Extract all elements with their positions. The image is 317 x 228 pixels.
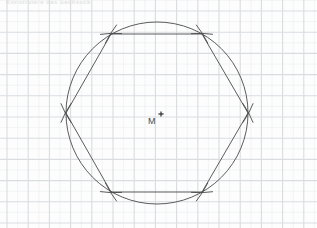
center-point-cross-icon (158, 111, 163, 116)
regular-hexagon (66, 34, 248, 192)
worksheet-canvas: Konstruiere das Sechseck M (0, 0, 317, 228)
circumscribed-circle (66, 22, 248, 204)
geometry-figure (0, 0, 317, 228)
center-point-label: M (148, 117, 156, 126)
